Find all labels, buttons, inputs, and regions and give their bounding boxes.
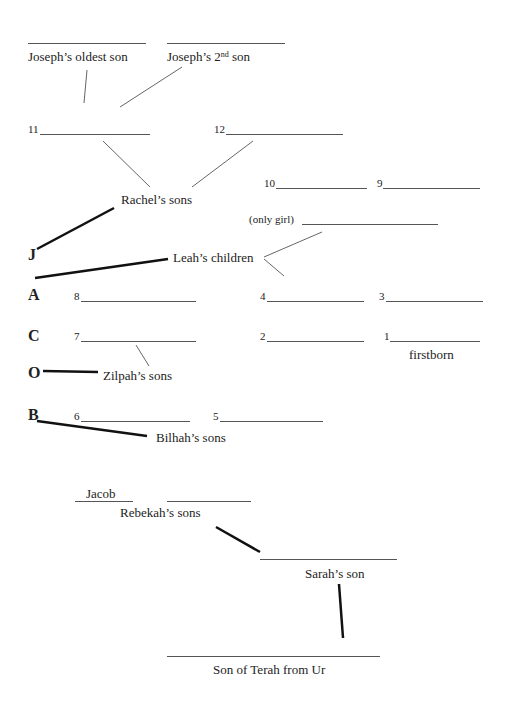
rebekah-son-2-blank[interactable]	[167, 501, 251, 502]
acrostic-letter-j: J	[28, 246, 36, 264]
sarah-son-blank[interactable]	[260, 559, 397, 560]
bilhah-sons-label: Bilhah’s sons	[156, 430, 226, 446]
rebekah-son-1-value: Jacob	[86, 486, 116, 502]
son-number-8: 8	[74, 290, 80, 302]
son-1-blank[interactable]	[390, 341, 480, 342]
son-9-blank[interactable]	[383, 188, 480, 189]
son-number-12: 12	[214, 123, 225, 135]
joseph-second-son-blank[interactable]	[167, 43, 285, 44]
joseph-oldest-son-blank[interactable]	[28, 43, 146, 44]
son-number-9: 9	[377, 177, 383, 189]
only-girl-blank[interactable]	[302, 224, 438, 225]
terah-son-blank[interactable]	[167, 656, 380, 657]
acrostic-letter-a: A	[28, 286, 40, 304]
firstborn-label: firstborn	[409, 347, 454, 363]
acrostic-letter-o: O	[28, 364, 40, 382]
acrostic-letter-b: B	[28, 406, 39, 424]
son-12-blank[interactable]	[226, 134, 343, 135]
son-number-2: 2	[260, 330, 266, 342]
son-10-blank[interactable]	[276, 188, 367, 189]
son-number-3: 3	[379, 290, 385, 302]
son-number-1: 1	[384, 330, 390, 342]
son-4-blank[interactable]	[267, 301, 364, 302]
leah-children-label: Leah’s children	[173, 250, 254, 266]
acrostic-letter-c: C	[28, 327, 40, 345]
terah-son-label: Son of Terah from Ur	[213, 662, 325, 678]
son-8-blank[interactable]	[81, 301, 196, 302]
son-2-blank[interactable]	[267, 341, 364, 342]
son-11-blank[interactable]	[40, 134, 150, 135]
sarah-son-label: Sarah’s son	[305, 566, 365, 582]
joseph-oldest-son-label: Joseph’s oldest son	[28, 49, 128, 65]
son-3-blank[interactable]	[386, 301, 483, 302]
zilpah-sons-label: Zilpah’s sons	[103, 368, 172, 384]
son-6-blank[interactable]	[81, 421, 190, 422]
son-number-4: 4	[260, 290, 266, 302]
son-5-blank[interactable]	[220, 421, 323, 422]
son-7-blank[interactable]	[81, 341, 196, 342]
rachel-sons-label: Rachel’s sons	[121, 192, 192, 208]
joseph-second-son-label: Joseph’s 2nd son	[167, 49, 250, 65]
son-number-7: 7	[74, 330, 80, 342]
son-number-10: 10	[264, 177, 275, 189]
rebekah-sons-label: Rebekah’s sons	[120, 505, 201, 521]
son-number-11: 11	[28, 123, 39, 135]
only-girl-label: (only girl)	[249, 213, 294, 225]
son-number-5: 5	[213, 410, 219, 422]
son-number-6: 6	[74, 410, 80, 422]
